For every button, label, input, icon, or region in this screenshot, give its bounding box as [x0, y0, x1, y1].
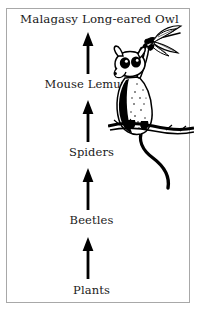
chain-level-label-plants: Plants: [0, 283, 191, 297]
mouse-lemur-icon: [114, 43, 169, 188]
energy-flow-arrow-1: [78, 236, 98, 280]
food-chain-figure: Malagasy Long-eared Owl Mouse Lemur Spid…: [0, 0, 199, 312]
mouse-lemur-illustration: [108, 22, 194, 190]
energy-flow-arrow-3: [78, 99, 98, 143]
chain-level-label-beetles: Beetles: [0, 213, 191, 227]
dragonfly-icon: [145, 26, 181, 56]
energy-flow-arrow-4: [78, 31, 98, 75]
energy-flow-arrow-2: [78, 167, 98, 211]
